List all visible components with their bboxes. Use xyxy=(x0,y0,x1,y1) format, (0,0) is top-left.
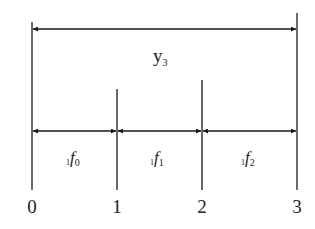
segment-label-f0: 1f0 xyxy=(66,148,80,168)
forward-rate-timeline-diagram: y3 1f0 1f1 1f2 0 1 2 3 xyxy=(0,0,315,229)
tick-label-1: 1 xyxy=(112,196,122,217)
span-label-y3: y3 xyxy=(153,45,168,68)
tick-label-3: 3 xyxy=(292,196,302,217)
tick-label-2: 2 xyxy=(197,196,207,217)
segment-label-f1: 1f1 xyxy=(150,148,164,168)
segment-label-f2: 1f2 xyxy=(241,148,255,168)
tick-label-0: 0 xyxy=(27,196,37,217)
